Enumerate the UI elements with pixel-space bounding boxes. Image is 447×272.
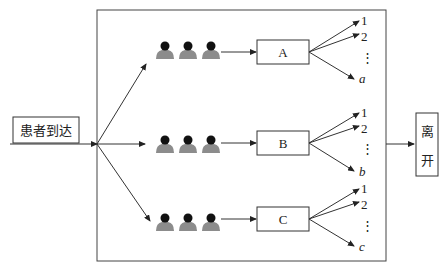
out-arrow-a-n (309, 52, 354, 79)
output-c-n: c (359, 239, 365, 254)
output-c-2: 2 (361, 197, 368, 212)
out-arrow-c-1 (309, 189, 359, 219)
route-arrow-c (97, 144, 150, 221)
arrival-node: 患者到达 (10, 117, 97, 144)
queue-a: A 1 2 ⋮ a (156, 13, 374, 86)
queue-b: B 1 2 ⋮ b (156, 105, 374, 179)
queue-diagram: 患者到达 A 1 2 ⋮ a B 1 2 ⋮ b (0, 0, 447, 272)
person-icon (202, 42, 220, 60)
exit-node: 离 开 (386, 113, 438, 176)
exit-label-bottom: 开 (421, 153, 434, 168)
output-b-2: 2 (361, 121, 368, 136)
output-a-n: a (359, 71, 366, 86)
arrival-label: 患者到达 (20, 123, 72, 138)
exit-label-top: 离 (421, 124, 434, 139)
out-arrow-b-1 (309, 113, 359, 143)
person-icon (179, 42, 197, 60)
server-c-label: C (279, 212, 288, 227)
output-b-n: b (359, 164, 366, 179)
person-icon (156, 214, 174, 232)
queue-c: C 1 2 ⋮ c (156, 181, 374, 254)
person-icon (179, 214, 197, 232)
output-c-dots: ⋮ (361, 218, 374, 233)
output-a-dots: ⋮ (361, 50, 374, 65)
output-c-1: 1 (361, 181, 368, 196)
person-icon (156, 42, 174, 60)
output-b-1: 1 (361, 105, 368, 120)
person-icon (202, 136, 220, 154)
person-icon (156, 136, 174, 154)
server-a-label: A (278, 45, 288, 60)
out-arrow-b-n (309, 143, 354, 171)
out-arrow-c-n (309, 219, 354, 246)
person-icon (202, 214, 220, 232)
person-icon (179, 136, 197, 154)
output-b-dots: ⋮ (361, 141, 374, 156)
route-arrow-a (97, 64, 146, 144)
output-a-2: 2 (361, 29, 368, 44)
output-a-1: 1 (361, 13, 368, 28)
system-frame (97, 10, 386, 261)
server-b-label: B (279, 136, 288, 151)
